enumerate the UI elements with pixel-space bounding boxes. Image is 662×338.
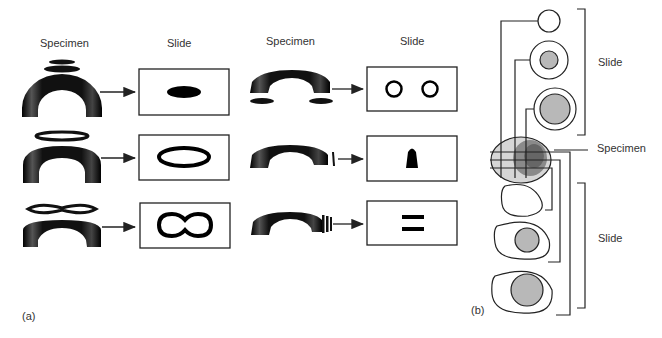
row3-left-slide <box>140 203 230 248</box>
row1-right-slide <box>367 67 457 111</box>
row2-right-specimen <box>250 145 335 168</box>
row2-left-slide <box>139 135 229 180</box>
panel-b-sections <box>490 9 588 315</box>
row3-left-specimen <box>23 205 101 247</box>
row3-right-specimen <box>251 212 332 235</box>
row2-left-specimen <box>23 132 101 183</box>
row1-left-specimen <box>22 60 102 118</box>
row1-left-slide <box>139 69 229 115</box>
diagram-canvas <box>0 0 662 338</box>
row1-right-specimen <box>250 70 333 104</box>
row2-right-slide <box>367 136 457 181</box>
row3-right-slide <box>367 201 457 245</box>
